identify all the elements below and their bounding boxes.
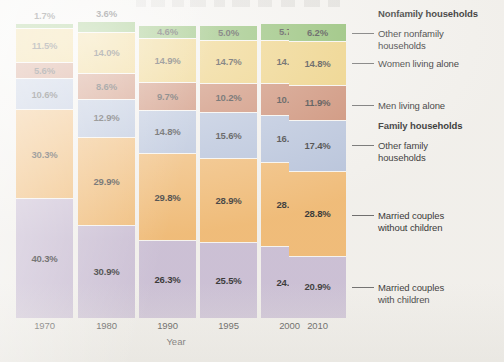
- bar-segment: 14.7%: [200, 41, 257, 84]
- leader-line-spacer: [352, 125, 374, 126]
- x-axis-tick-labels: 197019801990199520002010: [0, 318, 352, 336]
- bar-stack: 6.2%14.8%11.9%17.4%28.8%20.9%: [289, 24, 346, 318]
- bar-segment: 25.5%: [200, 243, 257, 318]
- segment-value-label: 6.2%: [307, 28, 328, 38]
- segment-value-label: 3.6%: [96, 9, 117, 19]
- legend-label: Men living alone: [378, 100, 445, 112]
- bar-stack: 4.6%14.9%9.7%14.8%29.8%26.3%: [139, 26, 196, 318]
- segment-value-label: 8.6%: [96, 82, 117, 92]
- segment-value-label: 11.9%: [305, 98, 331, 108]
- segment-value-label: 29.9%: [93, 177, 119, 187]
- bar-segment: 30.3%: [16, 110, 73, 199]
- bar-segment: 4.6%: [139, 26, 196, 39]
- bar-segment: 20.9%: [289, 257, 346, 318]
- segment-value-label: 28.9%: [215, 196, 241, 206]
- bar-segment: 11.5%: [16, 29, 73, 63]
- bar-segment: 14.9%: [139, 39, 196, 82]
- leader-line: [352, 287, 374, 288]
- bar-group-1995: 5.0%14.7%10.2%15.6%28.9%25.5%: [200, 26, 257, 318]
- legend-label: Women living alone: [378, 58, 459, 70]
- x-axis-tick-1970: 1970: [16, 320, 73, 331]
- bar-segment: 28.9%: [200, 159, 257, 243]
- x-axis-tick-1995: 1995: [200, 320, 257, 331]
- segment-value-label: 29.8%: [154, 193, 180, 203]
- leader-line-spacer: [352, 13, 374, 14]
- segment-value-label: 10.6%: [31, 90, 57, 100]
- segment-value-label: 30.3%: [31, 150, 57, 160]
- legend-entry: Men living alone: [352, 100, 445, 112]
- x-axis-tick-2010: 2010: [289, 320, 346, 331]
- bar-segment: 26.3%: [139, 241, 196, 318]
- bar-segment: 10.6%: [16, 79, 73, 110]
- x-axis-title: Year: [0, 336, 352, 347]
- legend: Nonfamily householdsOther nonfamily hous…: [352, 0, 504, 362]
- bar-segment: 29.9%: [78, 138, 135, 227]
- bar-segment: 30.9%: [78, 226, 135, 318]
- bar-group-1980: 3.6%14.0%8.6%12.9%29.9%30.9%: [78, 22, 135, 318]
- segment-value-label: 14.9%: [154, 56, 180, 66]
- bar-stack: 5.0%14.7%10.2%15.6%28.9%25.5%: [200, 26, 257, 318]
- bar-stack: 1.7%11.5%5.6%10.6%30.3%40.3%: [16, 24, 73, 318]
- legend-entry: Nonfamily households: [352, 8, 478, 20]
- bar-segment: 10.2%: [200, 84, 257, 114]
- segment-value-label: 40.3%: [31, 254, 57, 264]
- segment-value-label: 5.0%: [218, 28, 239, 38]
- bar-segment: 40.3%: [16, 199, 73, 317]
- segment-value-label: 10.2%: [215, 93, 241, 103]
- bar-group-1990: 4.6%14.9%9.7%14.8%29.8%26.3%: [139, 26, 196, 318]
- segment-value-label: 11.5%: [32, 41, 58, 51]
- segment-value-label: 26.3%: [154, 275, 180, 285]
- bar-segment: 14.0%: [78, 33, 135, 74]
- bar-segment: 12.9%: [78, 100, 135, 138]
- segment-value-label: 14.7%: [215, 57, 241, 67]
- leader-line: [352, 145, 374, 146]
- legend-entry: Women living alone: [352, 58, 459, 70]
- bar-segment: 8.6%: [78, 74, 135, 99]
- bar-segment: 29.8%: [139, 154, 196, 241]
- x-axis-tick-1980: 1980: [78, 320, 135, 331]
- segment-value-label: 15.6%: [215, 131, 241, 141]
- segment-value-label: 30.9%: [93, 267, 119, 277]
- segment-value-label: 1.7%: [34, 11, 55, 21]
- bar-segment: 17.4%: [289, 121, 346, 172]
- bar-stack: 3.6%14.0%8.6%12.9%29.9%30.9%: [78, 22, 135, 318]
- legend-group-heading: Family households: [378, 120, 462, 132]
- bar-group-1970: 1.7%11.5%5.6%10.6%30.3%40.3%: [16, 24, 73, 318]
- segment-value-label: 14.8%: [304, 59, 330, 69]
- legend-entry: Family households: [352, 120, 462, 132]
- bar-group-2010: 6.2%14.8%11.9%17.4%28.8%20.9%: [289, 24, 346, 318]
- segment-value-label: 12.9%: [93, 113, 119, 123]
- bar-segment: 15.6%: [200, 113, 257, 159]
- legend-entry: Other nonfamily households: [352, 28, 444, 51]
- segment-value-label: 4.6%: [157, 27, 178, 37]
- legend-label: Other nonfamily households: [378, 28, 444, 51]
- legend-label: Other family households: [378, 140, 428, 163]
- bar-segment: 5.0%: [200, 26, 257, 41]
- bar-segment: 3.6%: [78, 22, 135, 33]
- legend-label: Married couples without children: [378, 210, 444, 233]
- leader-line: [352, 33, 374, 34]
- segment-value-label: 25.5%: [215, 276, 241, 286]
- bar-segment: 6.2%: [289, 24, 346, 42]
- segment-value-label: 5.6%: [34, 66, 55, 76]
- leader-line: [352, 63, 374, 64]
- segment-value-label: 28.8%: [304, 209, 330, 219]
- leader-line: [352, 105, 374, 106]
- plot-area: 1.7%11.5%5.6%10.6%30.3%40.3%3.6%14.0%8.6…: [0, 0, 352, 318]
- legend-entry: Married couples without children: [352, 210, 444, 233]
- legend-label: Married couples with children: [378, 282, 444, 305]
- bar-segment: 14.8%: [139, 111, 196, 154]
- legend-group-heading: Nonfamily households: [378, 8, 478, 20]
- segment-value-label: 14.8%: [154, 127, 180, 137]
- segment-value-label: 14.0%: [93, 48, 119, 58]
- legend-entry: Other family households: [352, 140, 428, 163]
- bar-segment: 5.6%: [16, 63, 73, 79]
- legend-entry: Married couples with children: [352, 282, 444, 305]
- leader-line: [352, 215, 374, 216]
- segment-value-label: 20.9%: [304, 282, 330, 292]
- x-axis-tick-1990: 1990: [139, 320, 196, 331]
- bar-segment: 14.8%: [289, 42, 346, 86]
- bar-segment: 11.9%: [289, 86, 346, 121]
- stacked-bar-chart: 1.7%11.5%5.6%10.6%30.3%40.3%3.6%14.0%8.6…: [0, 0, 504, 362]
- bar-segment: 9.7%: [139, 83, 196, 111]
